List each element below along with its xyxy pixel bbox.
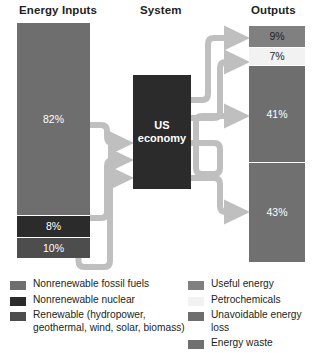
legend-label-renewable: Renewable (hydropower, geothermal, wind,… [33,309,190,334]
legend-item: Petrochemicals [188,294,319,307]
legend-item: Useful energy [188,278,319,291]
legend-swatch-energy-waste [188,340,204,349]
legend-inputs: Nonrenewable fossil fuels Nonrenewable n… [10,278,190,337]
input-segment-fossil-fuels: 82% [17,23,90,215]
system-box-label-line1: US [154,119,169,132]
legend-label-energy-waste: Energy waste [211,337,273,350]
energy-flow-diagram: Energy Inputs System Outputs [0,0,319,353]
legend-label-nuclear: Nonrenewable nuclear [33,294,135,307]
legend-label-fossil-fuels: Nonrenewable fossil fuels [33,278,149,291]
output-segment-energy-waste: 43% [249,163,305,262]
input-segment-nuclear: 8% [17,216,90,237]
flow-economy-to-petrochemicals [191,62,244,118]
legend-swatch-unavoidable-loss [188,312,204,321]
legend-swatch-fossil-fuels [10,281,26,290]
input-segment-renewable: 10% [17,238,90,258]
legend-swatch-renewable [10,312,26,321]
output-segment-petrochemicals: 7% [249,48,305,65]
system-box-us-economy: US economy [133,75,191,189]
flow-economy-to-waste [191,178,244,212]
inputs-stacked-bar: 82% 8% 10% [17,23,90,258]
output-segment-unavoidable-loss: 41% [249,66,305,162]
legend-item: Energy waste [188,337,319,350]
output-segment-energy-waste-label: 43% [266,207,287,218]
legend-label-unavoidable-loss: Unavoidable energy loss [211,309,319,334]
legend-item: Nonrenewable nuclear [10,294,190,307]
system-box-label-line2: economy [138,132,186,145]
legend-item: Renewable (hydropower, geothermal, wind,… [10,309,190,334]
input-segment-renewable-label: 10% [43,243,64,254]
flow-fossil-to-economy [90,125,128,143]
flow-economy-to-unavoidable-loss [191,116,244,174]
legend-swatch-useful-energy [188,281,204,290]
output-segment-petrochemicals-label: 7% [269,51,284,62]
output-segment-useful-energy: 9% [249,26,305,47]
output-segment-useful-energy-label: 9% [269,31,284,42]
input-segment-fossil-fuels-label: 82% [43,114,64,125]
legend-outputs: Useful energy Petrochemicals Unavoidable… [188,278,319,353]
output-segment-unavoidable-loss-label: 41% [266,109,287,120]
legend-label-useful-energy: Useful energy [211,278,274,291]
legend-item: Unavoidable energy loss [188,309,319,334]
legend-label-petrochemicals: Petrochemicals [211,294,281,307]
input-segment-nuclear-label: 8% [46,221,61,232]
outputs-stacked-bar: 9% 7% 41% 43% [249,26,305,262]
legend-swatch-nuclear [10,297,26,306]
legend-item: Nonrenewable fossil fuels [10,278,190,291]
legend-swatch-petrochemicals [188,297,204,306]
